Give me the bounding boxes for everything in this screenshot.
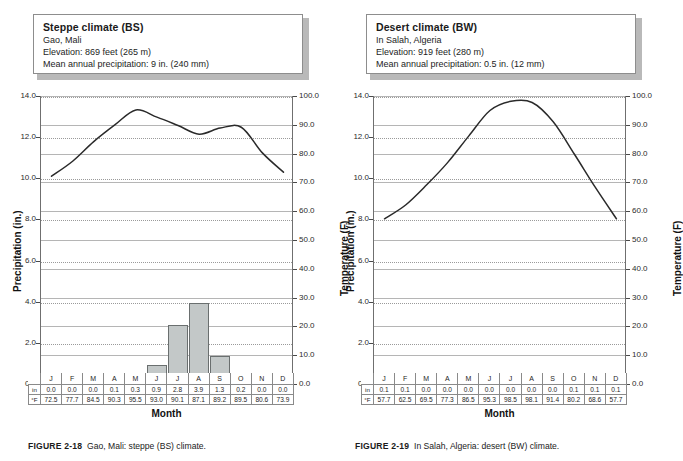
- info-precipitation: Mean annual precipitation: 0.5 in. (12 m…: [376, 58, 627, 70]
- table-corner-cell: [29, 373, 41, 385]
- y-tick-mark-precipitation: [36, 302, 40, 303]
- y-tick-mark-precipitation: [36, 343, 40, 344]
- table-cell-temperature: 91.4: [542, 395, 563, 405]
- table-cell-temperature: 62.5: [395, 395, 416, 405]
- table-cell-temperature: 84.5: [83, 395, 104, 405]
- table-cell-month: N: [251, 373, 272, 385]
- y-tick-label-temperature: 80.0: [299, 149, 333, 158]
- table-cell-precipitation: 0.1: [584, 385, 605, 395]
- table-cell-month: S: [209, 373, 230, 385]
- table-cell-temperature: 98.5: [500, 395, 521, 405]
- table-row-precipitation: in0.00.00.00.10.30.92.83.91.30.20.00.0: [29, 385, 294, 395]
- y-tick-mark-temperature: [626, 154, 630, 155]
- y-tick-mark-precipitation: [36, 178, 40, 179]
- table-cell-precipitation: 0.0: [458, 385, 479, 395]
- table-row-months: JFMAMJJASOND: [29, 373, 294, 385]
- info-elevation: Elevation: 869 feet (265 m): [43, 46, 294, 58]
- y-tick-label-temperature: 60.0: [299, 206, 333, 215]
- y-tick-mark-temperature: [626, 269, 630, 270]
- table-cell-temperature: 72.5: [41, 395, 62, 405]
- y-tick-mark-temperature: [626, 326, 630, 327]
- table-cell-month: A: [521, 373, 542, 385]
- y-tick-label-temperature: 30.0: [632, 293, 666, 302]
- table-row-temperature: °F57.762.569.577.386.595.398.598.191.480…: [362, 395, 627, 405]
- table-cell-precipitation: 3.9: [188, 385, 209, 395]
- table-cell-temperature: 87.1: [188, 395, 209, 405]
- y-tick-label-temperature: 90.0: [632, 120, 666, 129]
- y-tick-mark-precipitation: [369, 261, 373, 262]
- table-row-months: JFMAMJJASOND: [362, 373, 627, 385]
- table-cell-month: A: [188, 373, 209, 385]
- table-cell-precipitation: 0.1: [605, 385, 626, 395]
- y-tick-label-precipitation: 4.0: [337, 297, 369, 306]
- table-cell-precipitation: 0.9: [146, 385, 167, 395]
- y-tick-label-temperature: 0.0: [299, 379, 333, 388]
- table-cell-temperature: 57.7: [374, 395, 395, 405]
- info-location: Gao, Mali: [43, 34, 294, 46]
- y-axis-title-precipitation: Precipitation (in.): [12, 210, 23, 292]
- y-tick-mark-temperature: [293, 269, 297, 270]
- table-corner-cell: [362, 373, 374, 385]
- table-cell-month: M: [83, 373, 104, 385]
- table-cell-precipitation: 2.8: [167, 385, 188, 395]
- y-tick-label-temperature: 20.0: [299, 321, 333, 330]
- y-tick-label-temperature: 30.0: [299, 293, 333, 302]
- info-box-body: Desert climate (BW)In Salah, AlgeriaElev…: [366, 14, 636, 74]
- table-cell-temperature: 93.0: [146, 395, 167, 405]
- plot-area: [373, 96, 626, 384]
- y-tick-mark-temperature: [293, 96, 297, 97]
- y-tick-label-temperature: 10.0: [299, 350, 333, 359]
- info-elevation: Elevation: 919 feet (280 m): [376, 46, 627, 58]
- temperature-line: [41, 97, 294, 385]
- table-cell-month: D: [605, 373, 626, 385]
- y-tick-label-temperature: 50.0: [632, 235, 666, 244]
- y-tick-label-precipitation: 12.0: [4, 132, 36, 141]
- table-cell-month: O: [563, 373, 584, 385]
- climate-data-table: JFMAMJJASONDin0.10.10.00.00.00.00.00.00.…: [361, 373, 627, 405]
- table-cell-precipitation: 0.1: [104, 385, 125, 395]
- table-cell-precipitation: 0.0: [416, 385, 437, 395]
- table-cell-month: A: [104, 373, 125, 385]
- table-cell-temperature: 90.1: [167, 395, 188, 405]
- y-tick-label-precipitation: 14.0: [337, 91, 369, 100]
- plot-area: [40, 96, 293, 384]
- temperature-line: [374, 97, 627, 385]
- y-tick-mark-temperature: [293, 355, 297, 356]
- y-tick-mark-precipitation: [369, 302, 373, 303]
- table-cell-temperature: 73.9: [272, 395, 293, 405]
- table-cell-precipitation: 1.3: [209, 385, 230, 395]
- table-cell-temperature: 98.1: [521, 395, 542, 405]
- figure-caption-text: In Salah, Algeria: desert (BW) climate.: [414, 441, 559, 451]
- climograph-panel-in-salah-algeria: Desert climate (BW)In Salah, AlgeriaElev…: [333, 0, 665, 461]
- figure-caption-text: Gao, Mali: steppe (BS) climate.: [87, 441, 206, 451]
- table-cell-precipitation: 0.1: [563, 385, 584, 395]
- y-tick-label-temperature: 70.0: [299, 177, 333, 186]
- y-tick-label-precipitation: 2.0: [337, 338, 369, 347]
- table-cell-month: J: [167, 373, 188, 385]
- table-cell-precipitation: 0.0: [521, 385, 542, 395]
- table-cell-precipitation: 0.0: [479, 385, 500, 395]
- y-tick-label-precipitation: 10.0: [337, 173, 369, 182]
- table-cell-precipitation: 0.2: [230, 385, 251, 395]
- table-cell-precipitation: 0.0: [41, 385, 62, 395]
- y-tick-label-temperature: 100.0: [299, 91, 333, 100]
- table-cell-month: S: [542, 373, 563, 385]
- y-tick-mark-temperature: [626, 298, 630, 299]
- y-tick-mark-temperature: [293, 211, 297, 212]
- y-tick-label-precipitation: 4.0: [4, 297, 36, 306]
- table-row-precipitation: in0.10.10.00.00.00.00.00.00.00.10.10.1: [362, 385, 627, 395]
- table-cell-temperature: 90.3: [104, 395, 125, 405]
- table-cell-month: J: [146, 373, 167, 385]
- y-tick-mark-temperature: [293, 298, 297, 299]
- y-tick-mark-precipitation: [369, 137, 373, 138]
- y-tick-mark-temperature: [626, 182, 630, 183]
- info-location: In Salah, Algeria: [376, 34, 627, 46]
- table-cell-temperature: 95.5: [125, 395, 146, 405]
- table-cell-precipitation: 0.3: [125, 385, 146, 395]
- y-tick-mark-precipitation: [369, 178, 373, 179]
- y-tick-label-temperature: 40.0: [299, 264, 333, 273]
- figure-caption: FIGURE 2-19 In Salah, Algeria: desert (B…: [355, 441, 559, 451]
- y-tick-mark-temperature: [293, 154, 297, 155]
- table-cell-temperature: 89.2: [209, 395, 230, 405]
- table-cell-month: J: [41, 373, 62, 385]
